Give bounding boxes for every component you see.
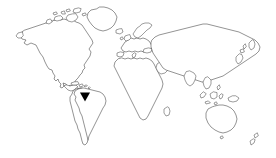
island-black-sea (143, 48, 152, 53)
island-cuba (71, 82, 79, 85)
island-madagascar (164, 107, 170, 116)
world-map-svg (0, 0, 276, 158)
island-borneo (210, 92, 217, 99)
island-hokkaido (240, 49, 244, 53)
island-ellesmere (73, 8, 81, 13)
landmass-iberia (117, 52, 124, 57)
world-map-figure (0, 0, 276, 158)
